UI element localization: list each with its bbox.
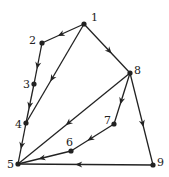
edge-8-to-9 (130, 73, 153, 165)
edge-1-to-8 (84, 24, 130, 73)
node-8: 8 (127, 64, 141, 77)
node-dot-icon (39, 40, 44, 45)
node-dot-icon (31, 81, 36, 86)
edge-8-to-7 (114, 73, 130, 124)
node-dot-icon (68, 148, 73, 153)
node-label: 3 (23, 78, 30, 91)
graph-canvas: 123456789 (0, 0, 169, 177)
node-9: 9 (150, 156, 164, 169)
node-dot-icon (111, 121, 116, 126)
edge-9-to-5 (18, 161, 153, 167)
node-dot-icon (150, 162, 155, 167)
edge-7-to-6 (71, 124, 114, 151)
edge-8-to-5 (18, 73, 130, 164)
directed-graph-diagram: 123456789 (0, 0, 169, 177)
node-dot-icon (127, 70, 132, 75)
node-1: 1 (81, 11, 98, 27)
node-dot-icon (81, 21, 86, 26)
edge-2-to-3 (34, 43, 42, 84)
node-label: 9 (157, 156, 164, 169)
node-label: 8 (134, 64, 141, 77)
node-label: 7 (104, 114, 111, 127)
node-label: 5 (7, 158, 14, 171)
node-dot-icon (15, 161, 20, 166)
node-label: 2 (29, 34, 36, 47)
node-2: 2 (29, 34, 45, 47)
node-label: 1 (91, 11, 98, 24)
node-label: 4 (15, 118, 22, 131)
node-dot-icon (23, 120, 28, 125)
node-6: 6 (66, 136, 74, 154)
node-label: 6 (66, 136, 73, 149)
arrowhead-icon (87, 134, 95, 140)
